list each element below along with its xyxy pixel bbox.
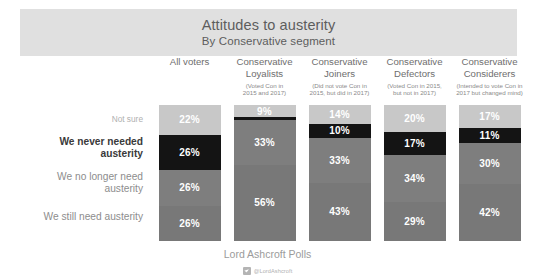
segment-value: 22%: [179, 114, 200, 125]
column-title: All voters: [153, 56, 226, 68]
column-header-conservative-defectors: Conservative Defectors (Voted Con in 201…: [377, 56, 452, 105]
chart-footer: Lord Ashcroft Polls @LordAshcroft: [0, 248, 535, 279]
segment-value: 29%: [404, 216, 425, 227]
segment-value: 33%: [329, 155, 350, 166]
bar-segment-still-need[interactable]: 56%: [234, 165, 296, 241]
segment-value: 30%: [479, 158, 500, 169]
bar-segment-still-need[interactable]: 29%: [384, 202, 446, 241]
bar-column-conservative-defectors[interactable]: 20% 17% 34% 29%: [377, 105, 452, 241]
footer-handle-text: @LordAshcroft: [254, 268, 293, 274]
column-subtitle: (Voted Con in 2015 and 2017): [228, 82, 301, 97]
segment-value: 17%: [404, 138, 425, 149]
row-label-never-needed: We never needed austerity: [59, 136, 143, 159]
bar-segment-never-needed[interactable]: 11%: [459, 128, 521, 143]
segment-value: 26%: [179, 218, 200, 229]
bar-segment-never-needed[interactable]: 17%: [384, 132, 446, 155]
bar-segment-still-need[interactable]: 42%: [459, 184, 521, 241]
stacked-bar-group: 22% 26% 26% 26% 9% 33% 56% 14% 10% 33% 4…: [152, 105, 527, 241]
twitter-icon: [243, 267, 251, 275]
column-header-conservative-loyalists: Conservative Loyalists (Voted Con in 201…: [227, 56, 302, 105]
bar-column-conservative-loyalists[interactable]: 9% 33% 56%: [227, 105, 302, 241]
bar-segment-not-sure[interactable]: 22%: [159, 105, 221, 135]
bar-segment-no-longer-need[interactable]: 33%: [309, 138, 371, 183]
bar-segment-never-needed[interactable]: 26%: [159, 135, 221, 170]
row-label-not-sure: Not sure: [112, 114, 143, 126]
footer-source-title: Lord Ashcroft Polls: [0, 248, 535, 261]
bar-segment-no-longer-need[interactable]: 26%: [159, 170, 221, 205]
segment-value: 20%: [404, 113, 425, 124]
segment-value: 17%: [479, 111, 500, 122]
row-labels-legend: Not sure We never needed austerity We no…: [0, 105, 148, 241]
stacked-bar: 17% 11% 30% 42%: [459, 105, 521, 241]
bar-segment-not-sure[interactable]: 9%: [234, 105, 296, 117]
column-header-conservative-considerers: Conservative Considerers (Intended to vo…: [452, 56, 527, 105]
bar-segment-still-need[interactable]: 26%: [159, 206, 221, 241]
segment-value: 34%: [404, 173, 425, 184]
stacked-bar: 22% 26% 26% 26%: [159, 105, 221, 241]
segment-value: 26%: [179, 147, 200, 158]
segment-value: 14%: [329, 109, 350, 120]
column-subtitle: (Did not vote Con in 2015, but did in 20…: [303, 82, 376, 97]
bar-segment-never-needed[interactable]: 10%: [309, 124, 371, 138]
column-title: Conservative Loyalists: [228, 56, 301, 79]
column-subtitle: (Voted Con in 2015, but not in 2017): [378, 82, 451, 97]
segment-value: 10%: [329, 125, 350, 136]
footer-social-handle[interactable]: @LordAshcroft: [243, 267, 293, 275]
segment-value: 42%: [479, 207, 500, 218]
stacked-bar: 14% 10% 33% 43%: [309, 105, 371, 241]
column-subtitle: (Intended to vote Con in 2017 but change…: [453, 82, 526, 97]
chart-subtitle: By Conservative segment: [202, 34, 335, 49]
segment-value: 9%: [257, 106, 272, 117]
segment-value: 26%: [179, 182, 200, 193]
segment-value: 43%: [329, 206, 350, 217]
bar-segment-no-longer-need[interactable]: 33%: [234, 120, 296, 165]
bar-column-all-voters[interactable]: 22% 26% 26% 26%: [152, 105, 227, 241]
segment-value: 11%: [479, 130, 499, 141]
bar-segment-no-longer-need[interactable]: 34%: [384, 155, 446, 201]
stacked-bar: 9% 33% 56%: [234, 105, 296, 241]
segment-value: 56%: [254, 197, 275, 208]
column-title: Conservative Considerers: [453, 56, 526, 79]
stacked-bar: 20% 17% 34% 29%: [384, 105, 446, 241]
chart-title: Attitudes to austerity: [202, 17, 336, 34]
bar-column-conservative-considerers[interactable]: 17% 11% 30% 42%: [452, 105, 527, 241]
row-label-no-longer-need: We no longer need austerity: [57, 171, 143, 194]
column-header-all-voters: All voters: [152, 56, 227, 105]
bar-segment-not-sure[interactable]: 14%: [309, 105, 371, 124]
column-title: Conservative Joiners: [303, 56, 376, 79]
column-title: Conservative Defectors: [378, 56, 451, 79]
row-label-still-need: We still need austerity: [44, 211, 143, 223]
segment-value: 33%: [254, 137, 275, 148]
chart-area: All voters Conservative Loyalists (Voted…: [0, 56, 535, 246]
column-header-conservative-joiners: Conservative Joiners (Did not vote Con i…: [302, 56, 377, 105]
bar-segment-not-sure[interactable]: 20%: [384, 105, 446, 132]
column-headers: All voters Conservative Loyalists (Voted…: [152, 56, 527, 105]
bar-segment-not-sure[interactable]: 17%: [459, 105, 521, 128]
chart-title-band: Attitudes to austerity By Conservative s…: [20, 9, 517, 56]
bar-segment-still-need[interactable]: 43%: [309, 183, 371, 241]
bar-column-conservative-joiners[interactable]: 14% 10% 33% 43%: [302, 105, 377, 241]
bar-segment-no-longer-need[interactable]: 30%: [459, 143, 521, 184]
